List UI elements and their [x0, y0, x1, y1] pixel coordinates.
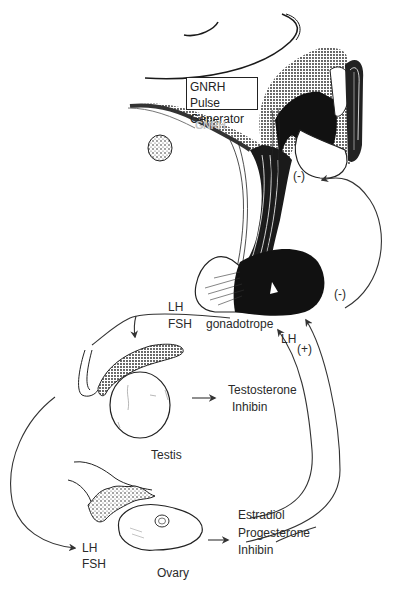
ovary-inhibin-label: Inhibin: [238, 543, 273, 557]
gnrh-pulse-generator-box: GNRH Pulse Generator: [186, 77, 258, 110]
testosterone-label: Testosterone: [228, 383, 297, 397]
testis-illustration: [79, 344, 215, 438]
testis-inhibin-label: Inhibin: [232, 400, 267, 414]
ovary-fsh-label: FSH: [82, 557, 106, 571]
gonadotrope-label: gonadotrope: [206, 317, 273, 331]
lh-surge-label: LH: [281, 332, 296, 346]
estradiol-label: Estradiol: [238, 508, 285, 522]
ovary-label: Ovary: [157, 566, 189, 580]
pituitary-fsh-label: FSH: [168, 317, 192, 331]
pituitary-lh-label: LH: [168, 300, 183, 314]
pulse-generator-line1: GNRH Pulse: [190, 79, 254, 111]
pituitary-gland: [195, 249, 324, 316]
negative-feedback-lower: (-): [334, 287, 346, 301]
brain-outline: [145, 14, 300, 79]
striated-tract: [345, 60, 363, 162]
ovary-illustration: [68, 462, 228, 551]
negative-feedback-upper: (-): [293, 169, 305, 183]
gnrh-label: GNRH: [195, 118, 225, 132]
positive-feedback-label: (+): [297, 342, 312, 356]
progesterone-label: Progesterone: [238, 526, 310, 540]
feedback-arrows: [11, 178, 382, 548]
testis-label: Testis: [151, 448, 182, 462]
ovary-lh-label: LH: [82, 541, 97, 555]
